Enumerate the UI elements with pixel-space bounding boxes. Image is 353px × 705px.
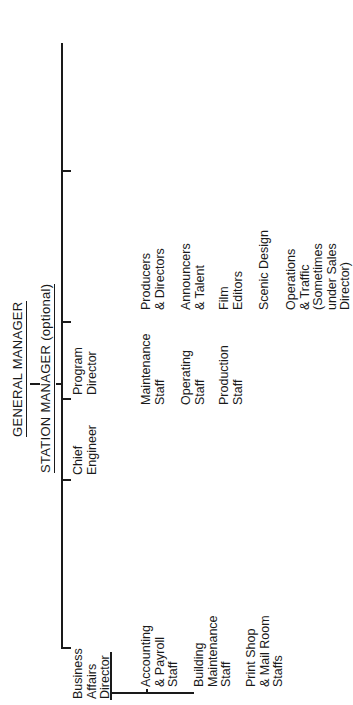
- staff-film-editors: Film Editors: [218, 271, 245, 310]
- staff-building-maintenance: Building Maintenance Staff: [193, 615, 234, 687]
- drop-program: [61, 398, 71, 400]
- drop-engineer: [61, 479, 71, 481]
- staff-production: Production Staff: [218, 345, 245, 405]
- drop-sales: [61, 170, 71, 172]
- staff-print-mail: Print Shop & Mail Room Staffs: [245, 615, 286, 687]
- org-chart: GENERAL MANAGER STATION MANAGER (optiona…: [0, 0, 353, 705]
- staff-producers-directors: Producers & Directors: [140, 248, 167, 310]
- staff-operations-traffic: Operations & Traffic (Sometimes under Sa…: [285, 243, 353, 310]
- dept-head-program-director: Program Director: [72, 347, 99, 395]
- staff-accounting-payroll: Accounting & Payroll Staff: [140, 625, 181, 687]
- station-manager-title: STATION MANAGER (optional): [38, 284, 55, 473]
- business-rail: [110, 692, 194, 694]
- business-tick-1: [146, 689, 148, 694]
- staff-announcers-talent: Announcers & Talent: [180, 243, 207, 310]
- dept-head-chief-engineer: Chief Engineer: [72, 425, 99, 475]
- department-spine: [61, 43, 63, 649]
- staff-scenic-design: Scenic Design: [258, 230, 272, 310]
- drop-community: [61, 321, 71, 323]
- general-manager-title: GENERAL MANAGER: [10, 302, 27, 438]
- staff-operating: Operating Staff: [180, 350, 207, 405]
- staff-maintenance: Maintenance Staff: [140, 333, 167, 405]
- dept-head-business-affairs: Business Affairs Director: [72, 648, 113, 699]
- drop-business: [61, 647, 71, 649]
